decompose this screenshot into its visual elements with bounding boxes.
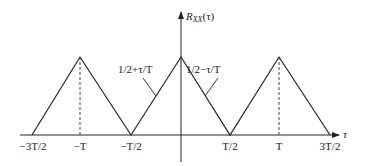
annotation-rising: 1/2+τ/T — [118, 63, 153, 75]
annotation-falling: 1/2−τ/T — [186, 63, 221, 75]
x-axis-label: τ — [343, 128, 348, 140]
leader-falling — [205, 78, 218, 96]
tick-label-pos-3T2: 3T/2 — [320, 140, 341, 152]
leader-rising — [143, 78, 156, 96]
tick-label-neg-3T2: −3T/2 — [20, 140, 47, 152]
tick-label-pos-T2: T/2 — [222, 140, 237, 152]
y-axis-label: RXX(τ) — [185, 10, 215, 24]
autocorrelation-diagram: RXX(τ) τ 1/2+τ/T 1/2−τ/T −3T/2 −T −T/2 T… — [0, 0, 369, 166]
tick-label-neg-T2: −T/2 — [120, 140, 141, 152]
tick-label-pos-T: T — [276, 140, 283, 152]
tick-label-neg-T: −T — [74, 140, 87, 152]
